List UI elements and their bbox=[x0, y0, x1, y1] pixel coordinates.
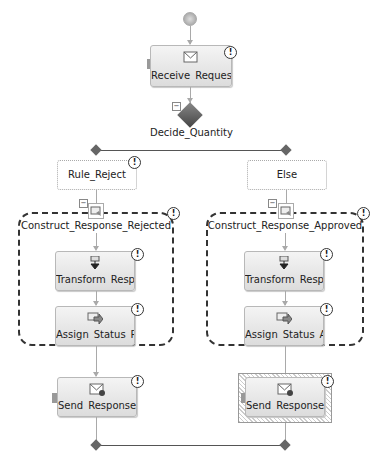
assign-status-shape[interactable]: Assign_Status_A ... bbox=[244, 306, 324, 346]
decide-diamond[interactable] bbox=[177, 102, 202, 127]
send-label: Send_Response ... bbox=[246, 400, 324, 411]
decide-label: Decide_Quantity bbox=[150, 127, 232, 138]
construct-message-icon[interactable] bbox=[88, 203, 104, 219]
transform-label: Transform_Resp... bbox=[245, 274, 323, 285]
join-right-diamond-icon bbox=[279, 439, 290, 450]
transform-icon bbox=[87, 256, 103, 270]
join-left-diamond-icon bbox=[90, 439, 101, 450]
assign-icon bbox=[87, 311, 103, 325]
transform-label: Transform_Resp... bbox=[56, 274, 134, 285]
connector bbox=[286, 190, 287, 203]
warning-icon[interactable]: ! bbox=[131, 248, 144, 261]
connector bbox=[96, 417, 97, 442]
rule-reject[interactable]: Rule_Reject bbox=[57, 160, 137, 190]
connector bbox=[96, 190, 97, 203]
warning-icon[interactable]: ! bbox=[128, 156, 141, 169]
rule-else[interactable]: Else bbox=[247, 160, 327, 190]
split-left-diamond-icon bbox=[90, 144, 101, 155]
join-line bbox=[96, 445, 286, 446]
transform-icon bbox=[276, 256, 292, 270]
receive-message-icon bbox=[183, 50, 199, 64]
send-message-icon bbox=[277, 382, 293, 396]
transform-shape[interactable]: Transform_Resp... bbox=[244, 251, 324, 291]
warning-icon[interactable]: ! bbox=[224, 46, 237, 59]
connector bbox=[285, 346, 286, 374]
assign-label: Assign_Status_R... bbox=[56, 329, 134, 340]
collapse-scope-icon[interactable]: − bbox=[268, 199, 277, 208]
receive-request-shape[interactable]: Receive_Reques... bbox=[150, 45, 232, 87]
assign-status-shape[interactable]: Assign_Status_R... bbox=[55, 306, 135, 346]
split-line bbox=[96, 150, 286, 151]
warning-icon[interactable]: ! bbox=[167, 207, 180, 220]
warning-icon[interactable]: ! bbox=[320, 248, 333, 261]
start-node[interactable] bbox=[183, 12, 197, 26]
receive-label: Receive_Reques... bbox=[151, 70, 231, 81]
collapse-decide-icon[interactable]: − bbox=[172, 102, 181, 111]
scope-title: Construct_Response_Rejected bbox=[18, 220, 174, 231]
assign-label: Assign_Status_A ... bbox=[245, 329, 323, 340]
warning-icon[interactable]: ! bbox=[357, 207, 370, 220]
warning-icon[interactable]: ! bbox=[320, 303, 333, 316]
send-response-shape[interactable]: Send_Response ... bbox=[57, 377, 137, 417]
assign-icon bbox=[276, 311, 292, 325]
scope-title: Construct_Response_Approved bbox=[206, 220, 364, 231]
warning-icon[interactable]: ! bbox=[131, 375, 144, 388]
warning-icon[interactable]: ! bbox=[321, 375, 334, 388]
send-response-shape-selected[interactable]: Send_Response ... bbox=[245, 377, 325, 417]
transform-shape[interactable]: Transform_Resp... bbox=[55, 251, 135, 291]
collapse-scope-icon[interactable]: − bbox=[79, 199, 88, 208]
warning-icon[interactable]: ! bbox=[131, 303, 144, 316]
split-right-diamond-icon bbox=[280, 144, 291, 155]
send-label: Send_Response ... bbox=[58, 400, 136, 411]
construct-message-icon[interactable] bbox=[278, 203, 294, 219]
send-message-icon bbox=[89, 382, 105, 396]
